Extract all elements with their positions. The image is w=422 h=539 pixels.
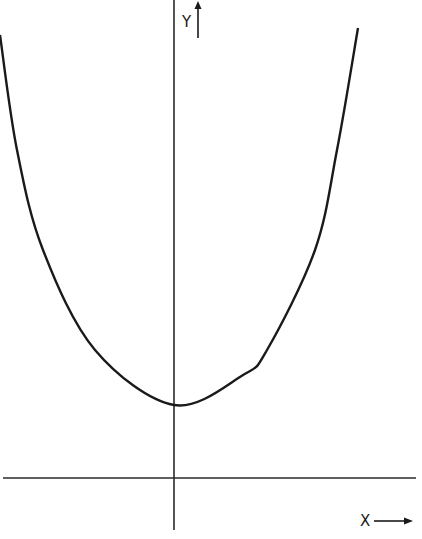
x-arrow-icon bbox=[374, 518, 413, 525]
parabola-plot bbox=[0, 0, 422, 539]
y-axis-label: Y bbox=[182, 15, 191, 30]
y-arrow-icon bbox=[195, 1, 202, 38]
x-axis-label: X bbox=[360, 514, 370, 529]
parabola-curve bbox=[0, 28, 358, 405]
